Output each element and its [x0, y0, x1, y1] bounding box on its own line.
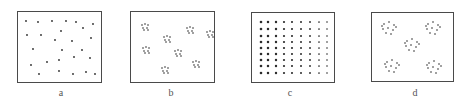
dot	[390, 65, 392, 67]
dot	[386, 61, 388, 63]
dot	[144, 52, 146, 54]
panel-b-dots	[131, 12, 216, 84]
dot	[207, 34, 209, 36]
dot	[58, 70, 60, 72]
dot	[291, 41, 293, 43]
panel-b-frame	[130, 11, 215, 83]
dot	[384, 63, 386, 65]
dot	[54, 39, 56, 41]
panel-c-dots	[252, 13, 336, 84]
dot	[411, 38, 413, 40]
dot	[163, 72, 165, 74]
dot	[300, 59, 302, 61]
dot	[283, 47, 285, 49]
dot	[166, 35, 168, 37]
dot	[433, 60, 435, 62]
dot	[318, 21, 320, 23]
dot	[188, 32, 190, 34]
dot	[82, 27, 84, 29]
dot	[429, 32, 431, 34]
dot	[267, 72, 269, 74]
dot	[283, 28, 285, 30]
dot	[267, 21, 269, 23]
dot	[25, 20, 27, 22]
panel-d-frame	[371, 12, 454, 82]
dot	[318, 28, 320, 30]
dot	[318, 35, 320, 37]
dot	[75, 21, 77, 23]
dot	[180, 50, 182, 52]
dot	[326, 53, 328, 55]
dot	[395, 26, 397, 28]
dot	[300, 53, 302, 55]
dot	[438, 63, 440, 65]
dot	[437, 68, 439, 70]
dot	[426, 64, 428, 66]
dot	[393, 71, 395, 73]
dot	[168, 39, 170, 41]
dot	[291, 35, 293, 37]
dot	[145, 46, 147, 48]
dot	[437, 24, 439, 26]
dot	[283, 53, 285, 55]
dot	[326, 65, 328, 67]
dot	[89, 57, 91, 59]
dot	[92, 23, 94, 25]
dot	[162, 70, 164, 72]
dot	[393, 24, 395, 26]
dot	[283, 41, 285, 43]
dot	[291, 47, 293, 49]
dot	[291, 53, 293, 55]
dot	[260, 72, 263, 75]
dot	[300, 28, 302, 30]
dot	[174, 50, 176, 52]
dot	[275, 59, 277, 61]
dot	[326, 28, 328, 30]
dot	[40, 34, 42, 36]
dot	[164, 66, 166, 68]
dot	[309, 72, 311, 74]
dot	[439, 26, 441, 28]
dot	[387, 27, 389, 29]
dot	[300, 41, 302, 43]
dot	[326, 59, 328, 61]
dot	[431, 27, 433, 29]
dot	[260, 47, 263, 50]
dot	[192, 61, 194, 63]
dot	[212, 31, 214, 33]
dot	[94, 73, 96, 75]
dot	[283, 72, 285, 74]
dot	[192, 27, 194, 29]
dot	[388, 70, 390, 72]
dot	[318, 41, 320, 43]
dot	[390, 33, 392, 35]
dot	[267, 53, 269, 55]
dot	[267, 65, 269, 67]
dot	[283, 65, 285, 67]
dot	[291, 72, 293, 74]
dot	[169, 41, 171, 43]
dot	[46, 61, 48, 63]
dot	[81, 49, 83, 51]
dot	[318, 72, 320, 74]
dot	[275, 35, 277, 37]
dot	[175, 53, 177, 55]
dot	[85, 71, 87, 73]
dot	[309, 41, 311, 43]
dot	[410, 44, 412, 46]
dot	[164, 39, 166, 41]
dot	[147, 24, 149, 26]
panel-d-dots	[372, 13, 455, 83]
dot	[381, 25, 383, 27]
dot	[318, 47, 320, 49]
dot	[260, 35, 263, 38]
dot	[61, 49, 63, 51]
dot	[326, 35, 328, 37]
dot	[291, 65, 293, 67]
dot	[211, 34, 213, 36]
dot	[187, 30, 189, 32]
dot	[208, 36, 210, 38]
dot	[427, 23, 429, 25]
dot	[404, 42, 406, 44]
dot	[72, 73, 74, 75]
